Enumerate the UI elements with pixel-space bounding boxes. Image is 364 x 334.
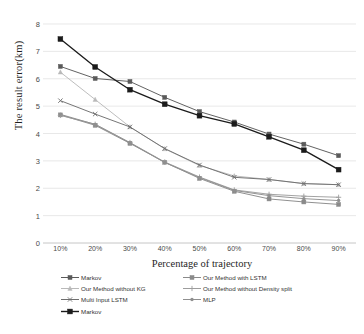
data-point-marker — [189, 286, 194, 291]
data-point-marker — [59, 113, 62, 116]
legend-marker-icon — [60, 273, 80, 282]
legend-item[interactable]: Our Method without KG — [60, 284, 182, 293]
data-point-marker — [302, 197, 305, 200]
legend-item[interactable]: Our Method with LSTM — [182, 273, 267, 282]
y-axis-tick-label: 7 — [18, 47, 40, 56]
data-point-marker — [93, 76, 97, 80]
legend-marker-icon — [60, 295, 80, 304]
data-point-marker — [337, 199, 340, 202]
legend-item[interactable]: Our Method without Density split — [182, 284, 292, 293]
series-line — [60, 114, 338, 200]
y-axis-tick-label: 5 — [18, 102, 40, 111]
legend-marker-icon — [60, 284, 80, 293]
data-point-marker — [267, 194, 270, 197]
legend-item[interactable]: Multi Input LSTM — [60, 295, 182, 304]
data-point-marker — [232, 122, 237, 127]
legend-marker-icon — [60, 307, 80, 316]
data-point-marker — [198, 176, 201, 179]
legend-row: MarkovOur Method with LSTM — [60, 272, 350, 283]
data-point-marker — [190, 298, 193, 301]
x-axis-tick-label: 40% — [148, 245, 182, 252]
data-point-marker — [190, 276, 194, 280]
y-axis-tick-label: 4 — [18, 129, 40, 138]
data-point-marker — [337, 154, 341, 158]
legend-item[interactable]: Markov — [60, 307, 182, 316]
data-point-marker — [163, 161, 166, 164]
x-axis-tick-label: 10% — [43, 245, 77, 252]
y-axis-tick-label: 6 — [18, 74, 40, 83]
legend-item[interactable]: MLP — [182, 295, 216, 304]
legend-label: Our Method without KG — [80, 285, 146, 292]
data-point-marker — [197, 113, 202, 118]
x-axis-title: Percentage of trajectory — [52, 258, 352, 269]
y-axis-tick-label: 3 — [18, 156, 40, 165]
legend-item[interactable]: Markov — [60, 273, 182, 282]
series-5 — [59, 113, 341, 203]
y-axis-tick-label: 8 — [18, 20, 40, 29]
data-point-marker — [68, 276, 72, 280]
data-point-marker — [93, 123, 96, 126]
legend-label: Markov — [80, 308, 101, 315]
data-point-marker — [301, 148, 306, 153]
data-point-marker — [93, 112, 97, 116]
x-axis-tick-label: 90% — [322, 245, 356, 252]
legend-marker-icon — [182, 273, 202, 282]
legend-row: Our Method without KGOur Method without … — [60, 283, 350, 294]
line-chart: The result error(km) 012345678 10%20%30%… — [0, 0, 364, 334]
data-point-marker — [68, 309, 73, 314]
data-point-marker — [267, 197, 271, 201]
data-point-marker — [58, 37, 63, 42]
x-axis-tick-label: 70% — [252, 245, 286, 252]
x-axis-tick-label: 80% — [287, 245, 321, 252]
series-line — [60, 39, 338, 170]
data-point-marker — [233, 189, 236, 192]
data-point-marker — [58, 64, 62, 68]
legend-label: Multi Input LSTM — [80, 296, 128, 303]
data-point-marker — [162, 102, 167, 107]
x-axis-tick-label: 20% — [78, 245, 112, 252]
legend-label: Markov — [80, 274, 101, 281]
series-6 — [58, 37, 341, 172]
x-axis-tick-label: 60% — [217, 245, 251, 252]
y-axis-tick-label: 2 — [18, 184, 40, 193]
y-axis-tick-label: 1 — [18, 211, 40, 220]
data-point-marker — [128, 87, 133, 92]
legend-marker-icon — [182, 295, 202, 304]
data-point-marker — [336, 167, 341, 172]
data-point-marker — [128, 79, 132, 83]
data-point-marker — [163, 95, 167, 99]
data-point-marker — [302, 200, 306, 204]
data-point-marker — [302, 142, 306, 146]
data-point-marker — [337, 202, 341, 206]
series-3 — [58, 113, 341, 200]
y-axis-tick-label: 0 — [18, 239, 40, 248]
legend-row: Markov — [60, 306, 350, 317]
data-point-marker — [58, 98, 62, 102]
legend-label: Our Method with LSTM — [202, 274, 267, 281]
data-point-marker — [267, 134, 272, 139]
legend-marker-icon — [182, 284, 202, 293]
data-point-marker — [93, 65, 98, 70]
y-axis-ticks: 012345678 — [10, 0, 40, 334]
legend-label: Our Method without Density split — [202, 285, 292, 292]
data-point-marker — [128, 141, 131, 144]
legend-label: MLP — [202, 296, 216, 303]
legend-row: Multi Input LSTMMLP — [60, 294, 350, 305]
data-point-marker — [198, 110, 202, 114]
x-axis-tick-label: 30% — [113, 245, 147, 252]
chart-legend: MarkovOur Method with LSTMOur Method wit… — [60, 272, 350, 317]
x-axis-tick-label: 50% — [183, 245, 217, 252]
data-point-marker — [58, 70, 62, 74]
